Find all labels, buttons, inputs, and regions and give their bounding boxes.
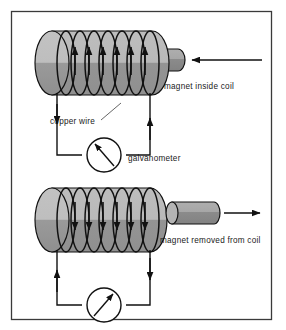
bar-magnet-outside xyxy=(166,202,220,224)
induction-diagram-svg: magnet inside coil galvanometer copper w… xyxy=(0,0,286,330)
label-copper-wire: copper wire xyxy=(50,117,95,126)
galvanometer-bottom xyxy=(87,288,121,322)
coil-end-cap-top xyxy=(35,31,69,95)
induction-figure: magnet inside coil galvanometer copper w… xyxy=(0,0,286,330)
label-galvanometer: galvanometer xyxy=(128,154,181,163)
label-magnet-inside-coil: magnet inside coil xyxy=(164,82,234,91)
galvanometer-top xyxy=(87,138,121,172)
coil-end-cap-bottom xyxy=(35,188,69,252)
label-magnet-removed-from-coil: magnet removed from coil xyxy=(160,236,261,245)
magnet-end-cap xyxy=(166,202,178,224)
